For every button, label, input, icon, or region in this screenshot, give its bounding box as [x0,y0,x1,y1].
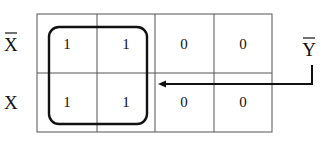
cell-r1-c2: 0 [180,94,188,110]
karnaugh-map: X X 1 1 0 0 1 1 0 0 Y [0,0,325,142]
cell-r0-c0: 1 [63,36,71,52]
svg-text:X: X [4,34,18,55]
svg-text:X: X [4,92,18,113]
cell-r0-c3: 0 [239,36,247,52]
term-label-y-bar: Y [302,38,316,60]
row-label-x-bar: X [4,33,18,55]
kmap-grid [37,14,272,132]
term-arrow [158,65,312,88]
cell-r0-c2: 0 [180,36,188,52]
svg-text:Y: Y [302,39,316,60]
cell-r1-c1: 1 [122,94,130,110]
cell-r0-c1: 1 [122,36,130,52]
row-label-x: X [4,92,18,113]
cell-r1-c3: 0 [239,94,247,110]
cell-r1-c0: 1 [63,94,71,110]
